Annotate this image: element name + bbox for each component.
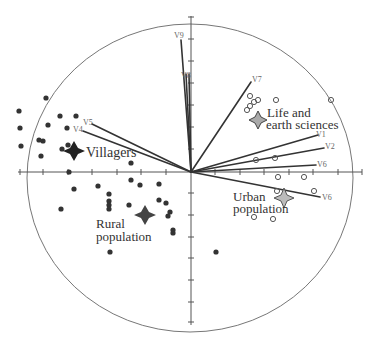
vector-label-v4: V4 <box>73 125 83 134</box>
vector-label-v5: V5 <box>83 118 93 127</box>
pca-biplot: V9 V8 V7 V1 V2 V6 V6 V5 V4 Villagers Rur… <box>0 0 375 338</box>
centroid-life-sciences-icon <box>249 111 267 129</box>
vector-label-v9: V9 <box>174 31 184 40</box>
vector-label-v6a: V6 <box>317 160 327 169</box>
label-life-line2: earth sciences <box>266 117 339 132</box>
label-villagers: Villagers <box>86 145 136 160</box>
vector-label-v6b: V6 <box>322 193 332 202</box>
vector-v7 <box>191 82 251 172</box>
label-rural-line2: population <box>96 229 152 244</box>
vector-label-v7: V7 <box>252 75 262 84</box>
vector-label-v2: V2 <box>325 142 335 151</box>
vector-label-v8: V8 <box>181 71 191 80</box>
label-urban-line2: population <box>233 201 289 216</box>
centroid-rural-icon <box>134 205 156 225</box>
